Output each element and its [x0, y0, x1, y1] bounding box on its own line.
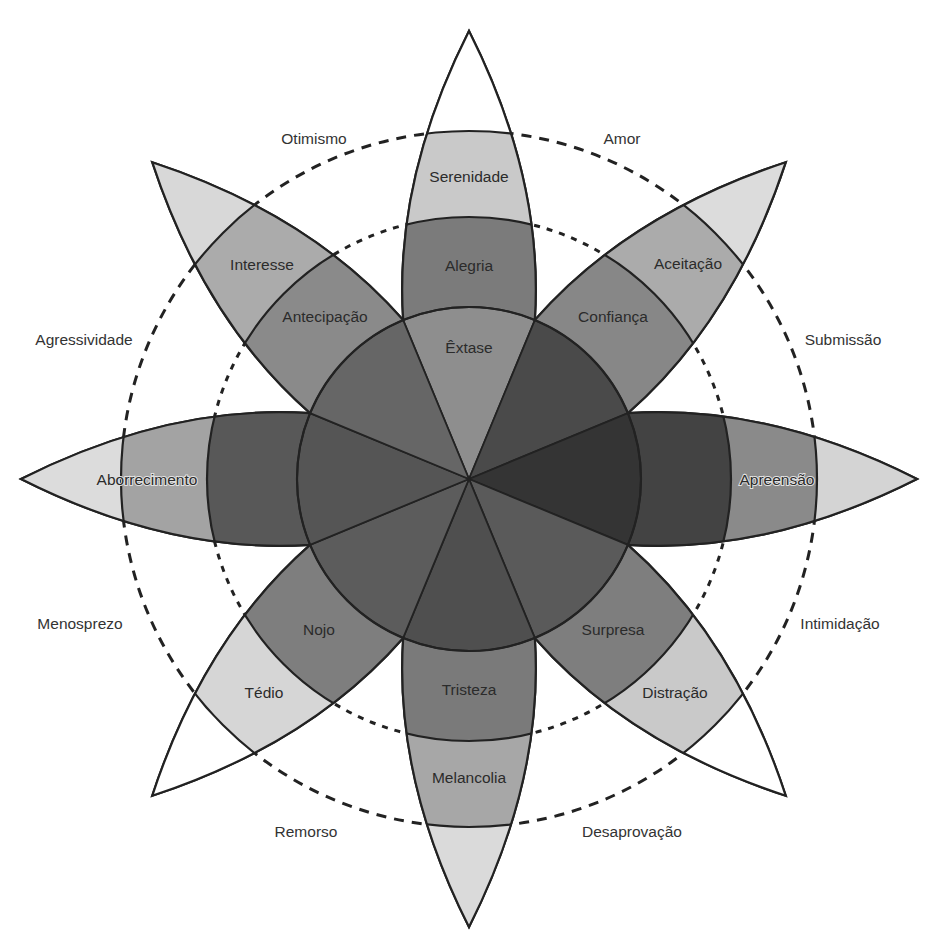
emotion-wheel-diagram: ÊxtaseAlegriaSerenidadeConfiançaAceitaçã… — [0, 0, 929, 941]
emotion-label-primary: Surpresa — [582, 621, 645, 638]
emotion-label-mild: Interesse — [230, 256, 294, 273]
dyad-label: Intimidação — [800, 615, 879, 632]
emotion-label-mild: Distração — [642, 684, 707, 701]
emotion-label-mild: Aborrecimento — [97, 471, 198, 488]
emotion-label-primary: Tristeza — [442, 681, 497, 698]
emotion-label-core: Êxtase — [445, 339, 492, 356]
dyad-label: Menosprezo — [37, 615, 122, 632]
emotion-label-mild: Tédio — [245, 684, 284, 701]
dyad-label: Otimismo — [281, 130, 346, 147]
emotion-label-mild: Melancolia — [432, 769, 506, 786]
emotion-label-mild: Serenidade — [429, 168, 508, 185]
emotion-label-primary: Antecipação — [282, 308, 367, 325]
emotion-label-mild: Aceitação — [654, 255, 722, 272]
core-circle-group — [297, 307, 641, 651]
emotion-label-primary: Nojo — [303, 621, 335, 638]
emotion-label-mild: Apreensão — [740, 471, 815, 488]
dyad-label: Remorso — [275, 823, 338, 840]
emotion-label-primary: Confiança — [578, 308, 648, 325]
emotion-wheel-svg: ÊxtaseAlegriaSerenidadeConfiançaAceitaçã… — [0, 0, 929, 941]
dyad-label: Amor — [603, 130, 640, 147]
emotion-label-primary: Alegria — [445, 257, 494, 274]
dyad-label: Agressividade — [35, 331, 132, 348]
dyad-label: Desaprovação — [582, 823, 682, 840]
dyad-label: Submissão — [805, 331, 882, 348]
